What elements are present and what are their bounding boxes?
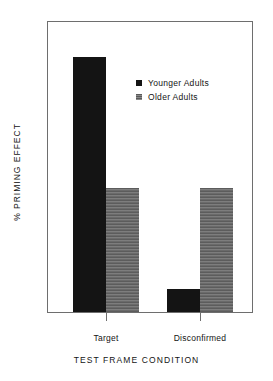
legend-label-older-adults: Older Adults — [148, 93, 198, 102]
x-axis-title: TEST FRAME CONDITION — [0, 355, 273, 365]
legend-swatch-younger-adults-icon — [136, 80, 142, 86]
chart-legend: Younger Adults Older Adults — [136, 77, 209, 105]
legend-label-younger-adults: Younger Adults — [148, 79, 209, 88]
bar — [73, 57, 106, 312]
bars-layer — [48, 22, 252, 312]
bar — [167, 289, 200, 312]
y-axis-title: % PRIMING EFFECT — [12, 107, 22, 237]
x-axis-tick — [200, 312, 201, 321]
plot-area: TargetDisconfirmed 02468101214 Younger A… — [47, 21, 253, 313]
x-axis-tick-label: Target — [94, 334, 119, 343]
x-axis-tick-label: Disconfirmed — [174, 334, 227, 343]
legend-swatch-older-adults-icon — [136, 94, 142, 100]
legend-item-younger-adults: Younger Adults — [136, 77, 209, 89]
legend-item-older-adults: Older Adults — [136, 91, 209, 103]
bar — [200, 188, 233, 312]
x-axis-tick — [106, 312, 107, 321]
figure: TargetDisconfirmed 02468101214 Younger A… — [0, 0, 273, 381]
bar — [106, 188, 139, 312]
